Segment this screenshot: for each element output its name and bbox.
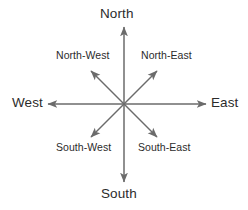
arrow-north-east [124, 71, 157, 104]
label-west: West [12, 96, 43, 110]
label-north-west: North-West [56, 50, 109, 61]
label-south: South [101, 187, 137, 201]
label-south-east: South-East [138, 142, 190, 153]
label-south-west: South-West [56, 142, 111, 153]
label-east: East [211, 96, 238, 110]
arrow-south-west [91, 104, 124, 137]
label-north-east: North-East [141, 50, 192, 61]
arrow-north-west [91, 71, 124, 104]
arrow-south-east [124, 104, 157, 137]
compass-rose-diagram: North South West East North-West North-E… [0, 0, 248, 210]
label-north: North [100, 7, 134, 21]
